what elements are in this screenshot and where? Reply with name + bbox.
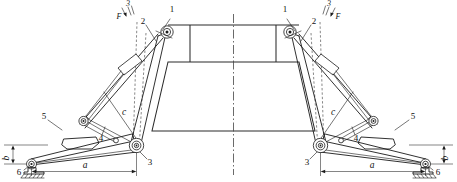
right-callout-4: 4 bbox=[354, 133, 359, 143]
left-link-edge-1 bbox=[80, 34, 158, 124]
left-dimension-a-label: a bbox=[83, 160, 88, 170]
right-callout-6: 6 bbox=[436, 167, 441, 177]
right-reference-line-b bbox=[311, 33, 318, 150]
right-leader-2 bbox=[301, 25, 311, 41]
left-callout-1: 1 bbox=[170, 4, 175, 14]
right-force-symbol: F bbox=[335, 12, 341, 21]
left-reference-line-b bbox=[139, 33, 146, 150]
right-cylinder-rod-2 bbox=[333, 74, 368, 119]
right-callout-2: 2 bbox=[312, 16, 317, 26]
left-callout-6: 6 bbox=[17, 167, 22, 177]
right-dimension-a-label: a bbox=[370, 160, 375, 170]
left-leader-5 bbox=[48, 120, 62, 130]
right-callout-3: 3 bbox=[305, 157, 310, 167]
left-leader-3 bbox=[140, 152, 147, 159]
left-dimension-b-label: b bbox=[1, 155, 11, 160]
right-outrigger-assembly bbox=[284, 6, 453, 178]
right-dim-b-arrow-up bbox=[442, 146, 446, 150]
left-actuator-rod-eye bbox=[114, 138, 119, 143]
left-dimension-c-label: c bbox=[122, 107, 127, 117]
right-mid-pivot-joint bbox=[369, 116, 378, 125]
left-callout-3: 3 bbox=[148, 157, 153, 167]
left-mid-pivot-joint bbox=[79, 116, 88, 125]
left-callout-2: 2 bbox=[141, 16, 146, 26]
right-dimension-b-label: b bbox=[440, 155, 450, 160]
right-knuckle-joint bbox=[313, 138, 327, 152]
left-cylinder-barrel bbox=[118, 54, 142, 75]
right-force-index: 3 bbox=[326, 0, 331, 8]
right-dimension-c-label: c bbox=[331, 107, 336, 117]
left-callout-4: 4 bbox=[99, 133, 104, 143]
left-callout-5: 5 bbox=[42, 111, 47, 121]
mechanism-drawing: 1 2 3 4 5 6 a b c F 3 bbox=[0, 0, 457, 182]
right-actuator-rod-eye bbox=[339, 138, 344, 143]
right-cylinder-barrel bbox=[315, 54, 339, 75]
right-leader-5 bbox=[395, 120, 409, 130]
left-knuckle-joint bbox=[129, 138, 143, 152]
left-force-symbol: F bbox=[116, 12, 122, 21]
right-dim-a-arrow-left bbox=[421, 170, 426, 174]
left-cylinder-rod-2 bbox=[89, 74, 124, 119]
left-dim-a-arrow-left bbox=[32, 170, 37, 174]
left-tie-member bbox=[86, 118, 137, 145]
left-top-pivot-joint bbox=[161, 26, 173, 38]
right-dim-a-arrow-right bbox=[321, 170, 326, 174]
right-tie-member bbox=[320, 118, 371, 145]
right-top-pivot-joint bbox=[284, 26, 296, 38]
left-dim-b-arrow-up bbox=[11, 146, 15, 150]
diagram-root: 1 2 3 4 5 6 a b c F 3 bbox=[0, 0, 457, 182]
right-callout-5: 5 bbox=[411, 111, 416, 121]
left-leader-2 bbox=[146, 25, 156, 41]
right-callout-1: 1 bbox=[283, 4, 288, 14]
left-dim-b-arrow-down bbox=[11, 160, 15, 164]
left-outrigger-assembly: 1 2 3 4 5 6 a b c F 3 bbox=[1, 0, 174, 178]
right-leader-3 bbox=[310, 152, 317, 159]
left-dim-a-arrow-right bbox=[132, 170, 137, 174]
left-force-index: 3 bbox=[125, 0, 130, 8]
